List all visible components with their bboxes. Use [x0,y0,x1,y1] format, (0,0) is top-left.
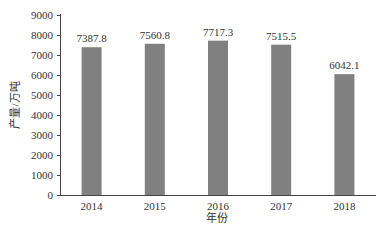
y-tick-label: 0 [48,189,54,201]
x-tick-label: 2016 [207,200,230,212]
x-axis-title: 年份 [206,211,228,224]
bar-chart: 0100020003000400050006000700080009000 73… [0,0,387,234]
x-tick-label: 2017 [270,200,293,212]
bar-value-label: 7387.8 [76,32,107,44]
y-tick-label: 8000 [31,29,54,41]
bar-2016 [208,41,228,195]
bar-2015 [145,44,165,195]
bar-2018 [334,74,354,195]
y-tick-label: 3000 [31,129,54,141]
bars: 7387.820147560.820157717.320167515.52017… [76,26,359,212]
x-tick-label: 2015 [144,200,167,212]
y-tick-label: 5000 [31,89,54,101]
y-axis-ticks: 0100020003000400050006000700080009000 [31,9,60,201]
bar-2017 [271,45,291,195]
bar-value-label: 7515.5 [266,30,297,42]
bar-value-label: 7717.3 [203,26,234,38]
bar-value-label: 7560.8 [140,29,171,41]
y-tick-label: 7000 [31,49,54,61]
y-tick-label: 6000 [31,69,54,81]
y-tick-label: 9000 [31,9,54,21]
y-tick-label: 2000 [31,149,54,161]
x-tick-label: 2018 [333,200,356,212]
y-axis-title: 产量/万吨 [8,81,21,128]
x-tick-label: 2014 [81,200,104,212]
bar-2014 [82,47,102,195]
y-tick-label: 4000 [31,109,54,121]
bar-value-label: 6042.1 [329,59,359,71]
y-tick-label: 1000 [31,169,54,181]
